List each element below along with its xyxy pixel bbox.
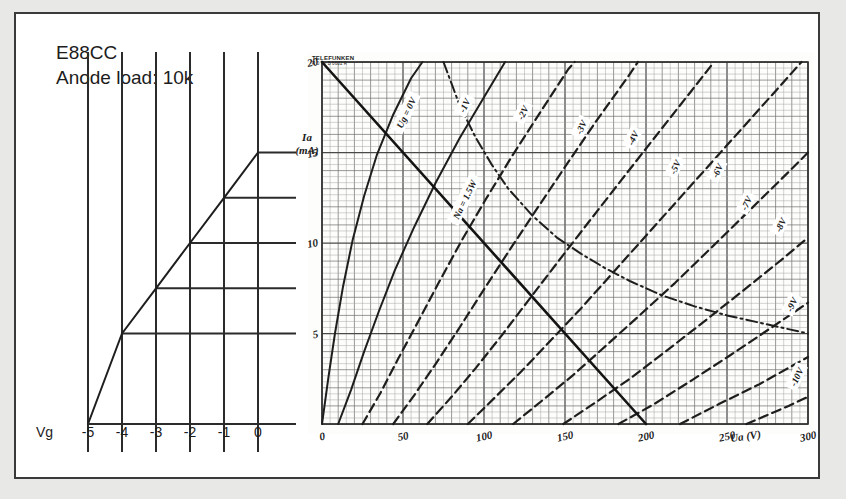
curve-label-7v: -7V <box>735 190 756 215</box>
x-tick-label-200: 200 <box>637 428 656 443</box>
x-tick-label-300: 300 <box>799 428 818 443</box>
transfer-characteristic-panel: E88CC Anode load: 10k Vg -5-4-3-2-10 <box>34 22 304 462</box>
ia-unit: (mA) <box>294 144 320 157</box>
anode-characteristic-chart: Ug = 0V-1V-2V-3V-4V-5V-6V-7V-8V-9V-10VNa… <box>294 40 816 436</box>
y-tick-label-20: 20 <box>306 55 319 69</box>
x-tick-label-150: 150 <box>556 428 575 443</box>
ia-axis-title: Ia(mA) <box>294 131 320 157</box>
figure-frame: E88CC Anode load: 10k Vg -5-4-3-2-10 Ug … <box>14 12 820 479</box>
curve-label-9v: -9V <box>781 292 802 317</box>
curve-label-3v: -3V <box>570 114 591 139</box>
curve-10v <box>746 397 808 424</box>
x-tick-label-100: 100 <box>475 428 494 443</box>
vg-tick-label--3: -3 <box>150 424 162 440</box>
curve-annotations: Ug = 0V-1V-2V-3V-4V-5V-6V-7V-8V-9V-10VNa… <box>391 91 808 392</box>
ia-symbol: Ia <box>294 131 320 144</box>
vg-tick-label--1: -1 <box>218 424 230 440</box>
curve-label-5v: -5V <box>664 154 685 179</box>
curve-label-na-1-5w: Na = 1.5W <box>447 173 482 226</box>
transfer-curve-plot <box>34 22 304 462</box>
screenshot-page: E88CC Anode load: 10k Vg -5-4-3-2-10 Ug … <box>0 0 846 499</box>
vg-tick-label--5: -5 <box>82 424 94 440</box>
curve-label-10v: -10V <box>785 362 808 392</box>
curve-9v <box>680 357 808 424</box>
curve-label-2v: -2V <box>512 100 533 125</box>
vg-tick-label--4: -4 <box>116 424 128 440</box>
y-tick-label-10: 10 <box>306 236 319 250</box>
curve-6v <box>513 153 808 425</box>
vg-tick-label-0: 0 <box>254 424 262 440</box>
chart-plot-area: Ug = 0V-1V-2V-3V-4V-5V-6V-7V-8V-9V-10VNa… <box>308 52 814 434</box>
vg-tick-label--2: -2 <box>184 424 196 440</box>
x-tick-label-50: 50 <box>396 429 409 443</box>
